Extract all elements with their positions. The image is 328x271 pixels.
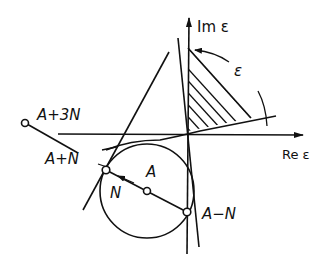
complex-plane-diagram: Im ε Re ε ε A+3N A+N A N A−N xyxy=(0,0,328,271)
tangent-line xyxy=(83,52,169,210)
im-axis-label: Im ε xyxy=(197,20,229,35)
angle-arc xyxy=(258,91,267,126)
hatched-region xyxy=(180,48,251,133)
label-a-minus-n: A−N xyxy=(202,207,236,222)
label-n: N xyxy=(110,186,121,201)
label-a: A xyxy=(146,165,156,180)
re-axis-label: Re ε xyxy=(282,148,310,161)
point-a-minus-n xyxy=(183,208,191,216)
n-vector-arrow xyxy=(118,176,134,183)
a3n-line xyxy=(27,124,78,153)
diagram-drawing xyxy=(0,0,328,271)
angle-arrow-arc xyxy=(195,50,229,62)
point-a xyxy=(144,188,151,195)
point-a-plus-3n xyxy=(22,120,29,127)
angle-epsilon-label: ε xyxy=(234,64,242,79)
label-a-plus-n: A+N xyxy=(45,152,79,167)
label-a-plus-3n: A+3N xyxy=(37,108,81,123)
point-a-plus-n xyxy=(102,166,110,174)
